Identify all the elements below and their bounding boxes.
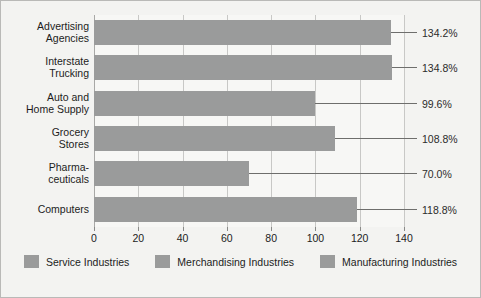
bar-5[interactable] xyxy=(94,197,357,222)
category-label-2: Auto and Home Supply xyxy=(9,92,89,115)
x-tick-label-140: 140 xyxy=(395,232,413,244)
x-tick-80 xyxy=(271,227,272,231)
bar-row xyxy=(94,50,404,85)
x-tick-label-20: 20 xyxy=(132,232,144,244)
value-label-0: 134.2% xyxy=(422,27,480,39)
bar-row xyxy=(94,15,404,50)
legend-swatch-icon xyxy=(24,255,39,268)
legend-swatch-icon xyxy=(320,255,335,268)
leader-line-4 xyxy=(249,173,417,174)
gridline-140 xyxy=(404,15,405,227)
value-label-2: 99.6% xyxy=(422,98,480,110)
x-tick-140 xyxy=(404,227,405,231)
value-label-1: 134.8% xyxy=(422,62,480,74)
leader-line-0 xyxy=(391,32,417,33)
category-label-4: Pharma- ceuticals xyxy=(9,162,89,185)
x-axis: 020406080100120140 xyxy=(94,227,404,247)
legend-swatch-icon xyxy=(155,255,170,268)
x-tick-120 xyxy=(360,227,361,231)
value-label-3: 108.8% xyxy=(422,133,480,145)
x-tick-40 xyxy=(183,227,184,231)
leader-line-2 xyxy=(315,103,417,104)
x-tick-label-120: 120 xyxy=(351,232,369,244)
plot-area xyxy=(94,15,404,227)
x-tick-label-40: 40 xyxy=(177,232,189,244)
x-tick-100 xyxy=(315,227,316,231)
category-label-1: Interstate Trucking xyxy=(9,56,89,79)
bar-0[interactable] xyxy=(94,20,391,45)
x-tick-label-80: 80 xyxy=(265,232,277,244)
legend-label: Manufacturing Industries xyxy=(342,256,457,268)
x-tick-0 xyxy=(94,227,95,231)
legend-item-manufacturing-industries: Manufacturing Industries xyxy=(320,255,457,268)
legend: Service Industries Merchandising Industr… xyxy=(1,255,480,268)
legend-label: Service Industries xyxy=(46,256,129,268)
value-label-5: 118.8% xyxy=(422,204,480,216)
x-tick-20 xyxy=(138,227,139,231)
legend-label: Merchandising Industries xyxy=(177,256,294,268)
leader-line-5 xyxy=(357,209,417,210)
value-label-4: 70.0% xyxy=(422,168,480,180)
leader-line-3 xyxy=(335,138,417,139)
category-label-3: Grocery Stores xyxy=(9,127,89,150)
x-tick-label-100: 100 xyxy=(307,232,325,244)
category-label-5: Computers xyxy=(9,204,89,216)
bar-chart: Advertising Agencies Interstate Trucking… xyxy=(0,0,481,298)
bar-3[interactable] xyxy=(94,126,335,151)
bar-4[interactable] xyxy=(94,161,249,186)
bar-2[interactable] xyxy=(94,91,315,116)
x-tick-label-0: 0 xyxy=(91,232,97,244)
x-tick-label-60: 60 xyxy=(221,232,233,244)
bar-1[interactable] xyxy=(94,55,392,80)
leader-line-1 xyxy=(392,67,417,68)
x-tick-60 xyxy=(227,227,228,231)
legend-item-service-industries: Service Industries xyxy=(24,255,129,268)
category-label-0: Advertising Agencies xyxy=(9,21,89,44)
legend-item-merchandising-industries: Merchandising Industries xyxy=(155,255,294,268)
